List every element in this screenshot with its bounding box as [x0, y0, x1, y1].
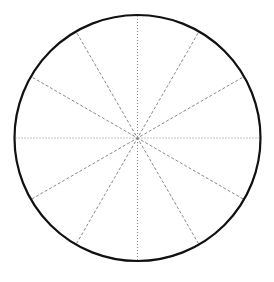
- diameter-lines: [16, 16, 260, 260]
- sector-circle-diagram: [0, 0, 274, 282]
